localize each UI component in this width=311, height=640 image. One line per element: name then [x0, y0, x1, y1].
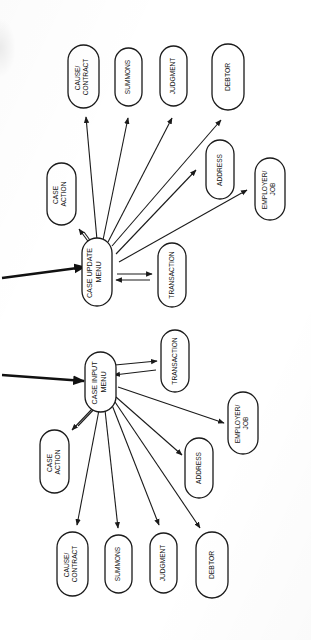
- node-cause-contract[interactable]: CAUSE/ CONTRACT: [68, 45, 99, 108]
- node-address[interactable]: ADDRESS: [185, 438, 213, 498]
- case-input-menu-canvas: CASE INPUT MENU TRANSACTION EMPLOYER/ JO…: [0, 320, 311, 640]
- node-employer-job[interactable]: EMPLOYER/ JOB: [255, 158, 285, 220]
- node-transaction-label: TRANSACTION: [171, 337, 178, 384]
- diagram-page: CASE UPDATE MENU CASE ACTION CAUSE/ CONT…: [0, 0, 311, 640]
- node-debtor[interactable]: DEBTOR: [196, 532, 228, 598]
- node-transaction-label: TRANSACTION: [168, 251, 175, 298]
- edge-root-transaction-bidirectional: [114, 361, 157, 375]
- node-address-label: ADDRESS: [195, 451, 202, 483]
- edge-root-to-cause-contract: [86, 117, 97, 240]
- edge-root-to-debtor: [112, 120, 221, 246]
- edge-root-to-summons: [103, 118, 128, 240]
- node-summons-label: SUMMONS: [124, 59, 131, 94]
- node-judgment-label: JUDGMENT: [159, 545, 166, 582]
- node-debtor[interactable]: DEBTOR: [212, 44, 244, 110]
- node-case-action-label: CASE ACTION: [46, 449, 62, 474]
- edge-root-transaction-bidirectional: [116, 274, 152, 280]
- edge-entry-to-root: [2, 267, 85, 278]
- node-address-label: ADDRESS: [216, 153, 223, 185]
- node-case-action[interactable]: CASE ACTION: [40, 430, 69, 493]
- node-address[interactable]: ADDRESS: [206, 140, 234, 199]
- node-judgment[interactable]: JUDGMENT: [160, 46, 187, 106]
- node-transaction[interactable]: TRANSACTION: [158, 243, 186, 307]
- node-case-action-label: CASE ACTION: [52, 181, 68, 206]
- node-case-update-menu[interactable]: CASE UPDATE MENU: [82, 238, 112, 306]
- node-judgment[interactable]: JUDGMENT: [150, 533, 177, 593]
- edge-root-to-judgment: [112, 405, 159, 525]
- node-case-action[interactable]: CASE ACTION: [47, 163, 76, 225]
- diagram-case-update-menu: CASE UPDATE MENU CASE ACTION CAUSE/ CONT…: [0, 0, 311, 320]
- node-summons[interactable]: SUMMONS: [115, 48, 142, 106]
- node-summons-label: SUMMONS: [114, 546, 121, 581]
- node-cause-contract-label: CAUSE/ CONTRACT: [74, 59, 90, 96]
- node-judgment-label: JUDGMENT: [169, 58, 176, 95]
- node-transaction[interactable]: TRANSACTION: [161, 330, 189, 392]
- edge-root-to-employer-job: [118, 387, 224, 423]
- edge-root-to-cause-contract: [77, 410, 99, 525]
- edge-root-to-summons: [105, 410, 118, 528]
- case-update-menu-canvas: CASE UPDATE MENU CASE ACTION CAUSE/ CONT…: [0, 0, 311, 320]
- node-summons[interactable]: SUMMONS: [105, 535, 132, 593]
- edge-root-to-judgment: [108, 118, 172, 242]
- node-cause-contract[interactable]: CAUSE/ CONTRACT: [57, 532, 88, 596]
- node-employer-job[interactable]: EMPLOYER/ JOB: [228, 392, 258, 454]
- node-cause-contract-label: CAUSE/ CONTRACT: [63, 546, 79, 583]
- node-case-input-menu[interactable]: CASE INPUT MENU: [85, 352, 116, 412]
- node-debtor-label: DEBTOR: [224, 63, 231, 91]
- edge-entry-to-root: [2, 375, 84, 381]
- diagram-case-input-menu: CASE INPUT MENU TRANSACTION EMPLOYER/ JO…: [0, 320, 311, 640]
- node-debtor-label: DEBTOR: [208, 551, 215, 579]
